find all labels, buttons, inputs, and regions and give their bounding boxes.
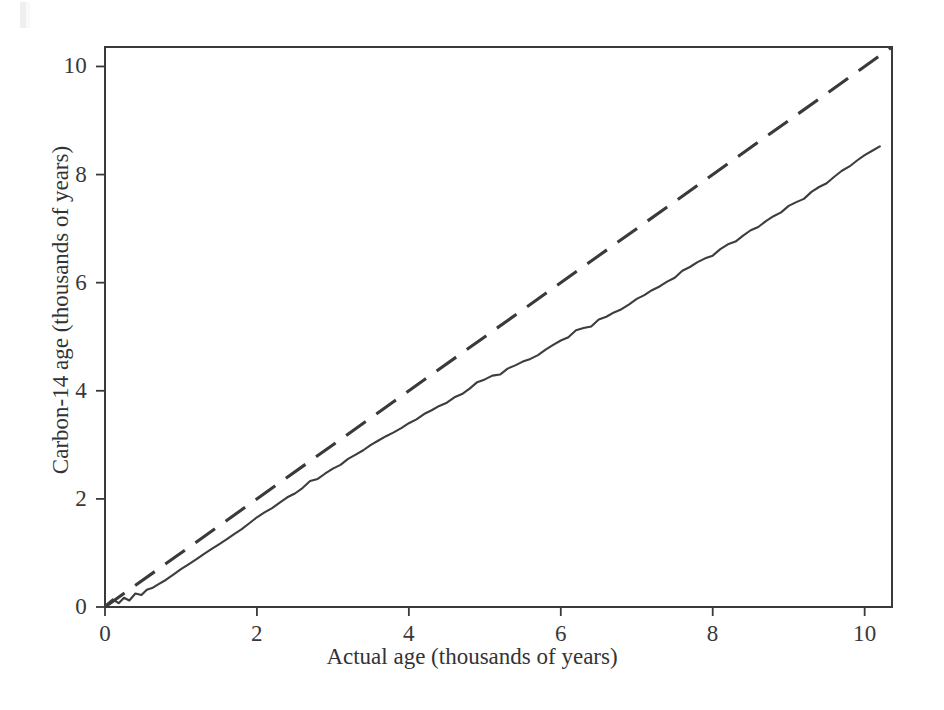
x-axis-title: Actual age (thousands of years) <box>0 644 944 670</box>
figure-container: 0246810 0246810 Actual age (thousands of… <box>0 0 944 710</box>
x-tick-marks <box>105 607 865 616</box>
chart-canvas <box>0 0 944 710</box>
y-tick-label: 0 <box>39 594 87 620</box>
reference-line-series <box>105 47 892 607</box>
y-tick-marks <box>96 66 105 607</box>
y-axis-title: Carbon-14 age (thousands of years) <box>48 30 74 590</box>
calibration-curve-series <box>105 146 880 605</box>
